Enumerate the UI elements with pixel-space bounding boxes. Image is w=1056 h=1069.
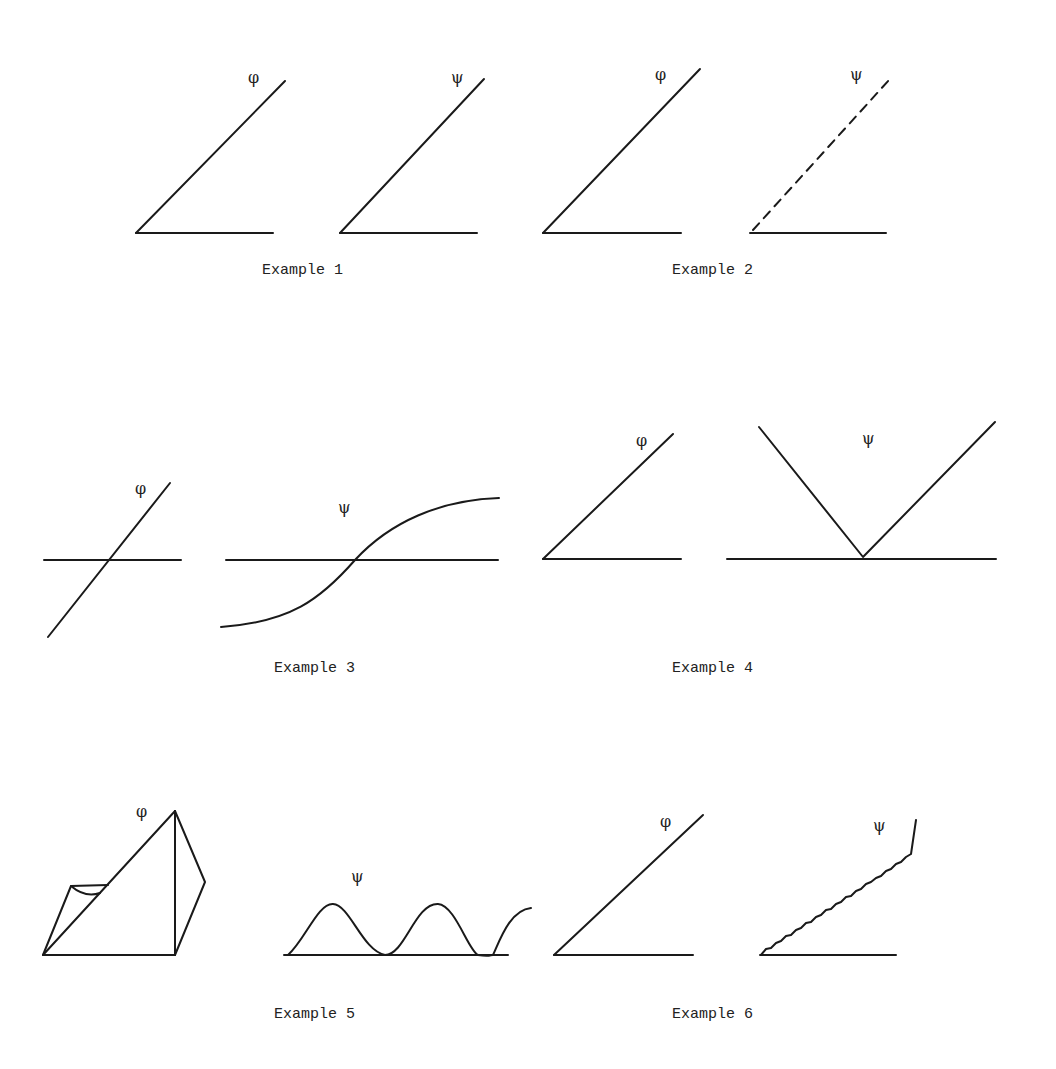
phi-label: φ — [135, 479, 146, 498]
psi-label: ψ — [862, 429, 875, 448]
phi-label: φ — [660, 812, 671, 831]
example-6-psi-graph: ψ — [760, 816, 916, 955]
example-4: φ ψ Example 4 — [543, 422, 996, 677]
example-2: φ ψ Example 2 — [543, 65, 889, 279]
example-6-caption: Example 6 — [672, 1006, 753, 1023]
psi-label: ψ — [850, 65, 863, 84]
example-1: φ ψ Example 1 — [136, 68, 484, 279]
example-2-phi-graph: φ — [543, 65, 700, 233]
example-5-caption: Example 5 — [274, 1006, 355, 1023]
figure-canvas: φ ψ Example 1 φ ψ Example 2 φ — [0, 0, 1056, 1069]
example-6: φ ψ Example 6 — [554, 812, 916, 1023]
example-3-caption: Example 3 — [274, 660, 355, 677]
example-4-psi-graph: ψ — [727, 422, 996, 559]
psi-label: ψ — [451, 68, 464, 87]
psi-s-curve — [221, 498, 499, 627]
example-5: φ ψ Example 5 — [43, 802, 531, 1023]
phi-diagonal — [43, 811, 175, 955]
example-6-phi-graph: φ — [554, 812, 703, 955]
phi-label: φ — [248, 68, 259, 87]
psi-wave-curve — [288, 904, 531, 956]
psi-jagged-line — [761, 820, 916, 955]
example-4-phi-graph: φ — [543, 431, 681, 559]
phi-label: φ — [136, 802, 147, 821]
example-5-phi-graph: φ — [43, 802, 205, 955]
psi-dashed-line — [753, 80, 889, 230]
example-3-psi-graph: ψ — [221, 498, 499, 627]
phi-flap-curve — [71, 886, 100, 894]
phi-line — [554, 815, 703, 955]
example-2-psi-graph: ψ — [750, 65, 889, 233]
psi-label: ψ — [338, 498, 351, 517]
phi-line — [136, 81, 285, 233]
example-3-phi-graph: φ — [44, 479, 181, 637]
phi-side-face — [175, 811, 205, 955]
example-2-caption: Example 2 — [672, 262, 753, 279]
example-4-caption: Example 4 — [672, 660, 753, 677]
phi-line — [543, 69, 700, 233]
phi-line — [543, 434, 673, 559]
psi-line — [340, 79, 484, 233]
phi-label: φ — [655, 65, 666, 84]
example-1-psi-graph: ψ — [340, 68, 484, 233]
example-1-phi-graph: φ — [136, 68, 285, 233]
example-3: φ ψ Example 3 — [44, 479, 499, 677]
example-5-psi-graph: ψ — [284, 867, 531, 956]
psi-label: ψ — [873, 816, 886, 835]
psi-label: ψ — [351, 867, 364, 886]
phi-label: φ — [636, 431, 647, 450]
psi-v-shape — [759, 422, 995, 557]
example-1-caption: Example 1 — [262, 262, 343, 279]
